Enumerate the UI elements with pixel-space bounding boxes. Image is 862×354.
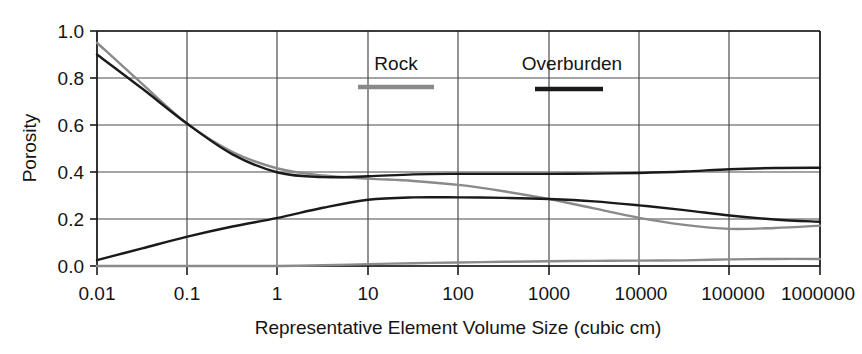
porosity-rev-chart: 1.0 0.8 0.6 0.4 0.2 0.0 0.01 0.1 1 10 10… bbox=[0, 0, 862, 354]
x-tick-label-100000: 100000 bbox=[701, 283, 764, 304]
x-tick-label-1000000: 1000000 bbox=[781, 283, 855, 304]
x-tick-label-1000: 1000 bbox=[528, 283, 570, 304]
x-axis-title: Representative Element Volume Size (cubi… bbox=[255, 317, 662, 338]
x-tick-label-0.1: 0.1 bbox=[174, 283, 200, 304]
legend-label-overburden: Overburden bbox=[522, 53, 622, 74]
y-tick-label-0.6: 0.6 bbox=[58, 115, 84, 136]
y-tick-label-1.0: 1.0 bbox=[58, 21, 84, 42]
x-tick-label-1: 1 bbox=[272, 283, 283, 304]
x-tick-label-100: 100 bbox=[442, 283, 474, 304]
y-axis-title: Porosity bbox=[19, 113, 40, 182]
x-tick-label-10000: 10000 bbox=[615, 283, 668, 304]
x-tick-label-0.01: 0.01 bbox=[79, 283, 116, 304]
y-tick-label-0.4: 0.4 bbox=[58, 162, 85, 183]
legend-label-rock: Rock bbox=[374, 53, 418, 74]
y-tick-label-0.0: 0.0 bbox=[58, 256, 84, 277]
y-tick-label-0.8: 0.8 bbox=[58, 68, 84, 89]
x-tick-label-10: 10 bbox=[357, 283, 378, 304]
y-tick-label-0.2: 0.2 bbox=[58, 209, 84, 230]
chart-figure: 1.0 0.8 0.6 0.4 0.2 0.0 0.01 0.1 1 10 10… bbox=[0, 0, 862, 354]
x-tick-labels: 0.01 0.1 1 10 100 1000 10000 100000 1000… bbox=[79, 283, 855, 304]
